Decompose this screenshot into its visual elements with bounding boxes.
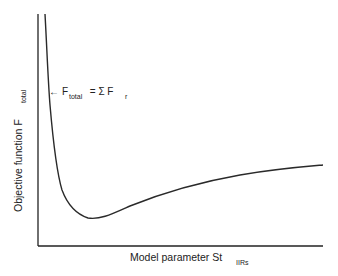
y-axis-label-main: Objective function F [12, 119, 24, 212]
x-axis-label-main: Model parameter St [130, 251, 222, 263]
annotation-f: F [62, 86, 68, 97]
y-axis-label: Objective function F total [12, 89, 27, 212]
x-axis-label: Model parameter St IIRs [130, 251, 249, 266]
x-axis-label-sub: IIRs [236, 259, 249, 266]
objective-curve [45, 14, 323, 218]
annotation-arrow: ← [49, 86, 59, 97]
annotation-sub-r: r [125, 93, 128, 100]
chart-canvas: ← F total = Σ F r Objective function F t… [0, 0, 338, 276]
y-axis-label-sub: total [20, 89, 27, 103]
curve-annotation: ← F total = Σ F r [49, 86, 128, 100]
annotation-sub-total: total [69, 93, 83, 100]
annotation-eq: = Σ F [87, 86, 113, 97]
